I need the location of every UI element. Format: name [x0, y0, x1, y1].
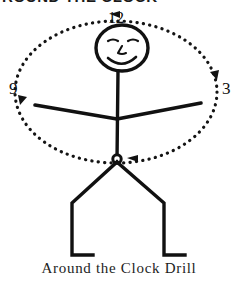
figure-right-arm: [117, 103, 201, 119]
clock-numeral-3: 3: [222, 80, 231, 97]
figure-caption: Around the Clock Drill: [0, 260, 238, 277]
arrowhead-9-icon: [18, 95, 27, 105]
figure-left-arm: [35, 105, 117, 119]
clock-numeral-9: 9: [9, 80, 18, 97]
arrowhead-6-icon: [127, 155, 138, 162]
figure-torso: [117, 71, 118, 160]
figure-right-leg: [117, 162, 185, 255]
clock-numeral-12: 12: [108, 10, 124, 26]
diagram-page: ROUND THE CLOCK 12 3 9 Around t: [0, 0, 238, 283]
stick-figure-clock-diagram: [0, 0, 238, 262]
figure-left-leg: [72, 162, 117, 255]
